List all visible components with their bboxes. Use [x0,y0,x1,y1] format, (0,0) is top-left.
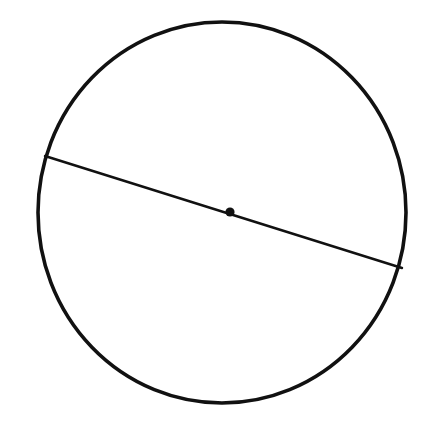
circle-diagram-svg [0,0,430,424]
figure-canvas [0,0,430,424]
figure-background [0,0,430,424]
center-point [225,207,234,216]
